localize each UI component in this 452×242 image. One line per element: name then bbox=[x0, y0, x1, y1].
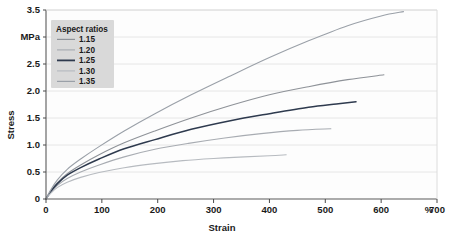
legend-label-1.35: 1.35 bbox=[79, 77, 95, 86]
chart-canvas: 00.51.01.52.02.5MPa3.5 01002003004005006… bbox=[0, 0, 452, 242]
legend-label-1.30: 1.30 bbox=[79, 67, 95, 76]
x-tick-label-0: 0 bbox=[43, 204, 48, 215]
x-axis-unit-label: % bbox=[425, 204, 434, 215]
y-tick-label-3.5: 3.5 bbox=[27, 4, 41, 15]
stress-strain-chart-figure: 00.51.01.52.02.5MPa3.5 01002003004005006… bbox=[0, 0, 452, 242]
legend-label-1.15: 1.15 bbox=[79, 35, 95, 44]
x-axis-title: Strain bbox=[209, 222, 236, 233]
y-tick-label-1.5: 1.5 bbox=[27, 112, 41, 123]
x-tick-label-400: 400 bbox=[261, 204, 277, 215]
y-axis-title: Stress bbox=[5, 110, 16, 139]
y-tick-label-2.0: 2.0 bbox=[27, 85, 40, 96]
y-tick-label-0: 0 bbox=[35, 193, 40, 204]
x-tick-label-100: 100 bbox=[94, 204, 110, 215]
legend-title: Aspect ratios bbox=[56, 25, 108, 34]
legend-label-1.25: 1.25 bbox=[79, 56, 95, 65]
x-tick-label-500: 500 bbox=[317, 204, 333, 215]
x-tick-label-300: 300 bbox=[206, 204, 222, 215]
y-tick-label-MPa: MPa bbox=[20, 31, 40, 42]
x-tick-label-600: 600 bbox=[373, 204, 389, 215]
x-tick-label-200: 200 bbox=[150, 204, 166, 215]
y-tick-label-2.5: 2.5 bbox=[27, 58, 41, 69]
legend[interactable]: Aspect ratios 1.151.201.251.301.35 bbox=[51, 20, 114, 88]
legend-label-1.20: 1.20 bbox=[79, 46, 95, 55]
y-tick-label-0.5: 0.5 bbox=[27, 166, 41, 177]
y-tick-label-1.0: 1.0 bbox=[27, 139, 40, 150]
